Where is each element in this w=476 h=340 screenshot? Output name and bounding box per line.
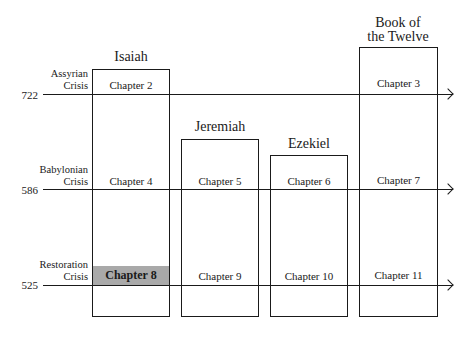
book-box-jeremiah [181, 139, 259, 317]
arrow-head-722-icon [442, 88, 453, 99]
timeline-525 [43, 285, 453, 286]
chapter-9-label: Chapter 9 [181, 270, 259, 282]
book-title-twelve-line1: Book of [359, 16, 437, 30]
crisis-label-restoration-line1: Restoration [8, 259, 88, 271]
year-label-722: 722 [12, 89, 38, 101]
chapter-11-label: Chapter 11 [359, 269, 438, 281]
timeline-722 [43, 94, 453, 95]
year-label-586: 586 [12, 184, 38, 196]
chapter-10-label: Chapter 10 [270, 270, 348, 282]
chapter-5-label: Chapter 5 [181, 175, 259, 187]
arrow-head-525-icon [442, 279, 453, 290]
book-title-ezekiel: Ezekiel [270, 137, 348, 151]
chapter-8-highlight: Chapter 8 [93, 266, 169, 285]
chapter-7-label: Chapter 7 [359, 174, 438, 186]
book-title-jeremiah: Jeremiah [181, 120, 259, 134]
chapter-6-label: Chapter 6 [270, 175, 348, 187]
crisis-label-babylonian-line1: Babylonian [8, 164, 88, 176]
chapter-3-label: Chapter 3 [359, 77, 438, 89]
year-label-525: 525 [12, 279, 38, 291]
timeline-586 [43, 189, 453, 190]
book-title-twelve-line2: the Twelve [359, 30, 437, 44]
chapter-2-label: Chapter 2 [92, 79, 170, 91]
arrow-head-586-icon [442, 183, 453, 194]
crisis-label-assyrian-line1: Assyrian [8, 68, 88, 80]
book-title-isaiah: Isaiah [92, 50, 170, 64]
chapter-4-label: Chapter 4 [92, 175, 170, 187]
